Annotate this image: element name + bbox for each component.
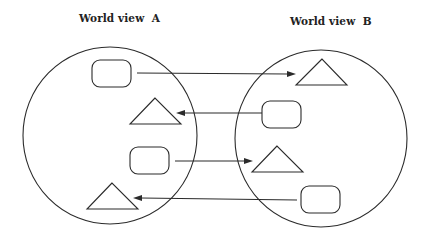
world-view-b-circle — [235, 50, 407, 227]
mapping-arrow-3 — [175, 158, 253, 164]
world-a-rounded-rectangle-1 — [92, 60, 131, 87]
world-b-rounded-rectangle-4 — [301, 186, 340, 213]
mapping-arrow-1 — [137, 71, 296, 77]
mapping-arrow-4 — [133, 195, 297, 201]
world-b-rounded-rectangle-2 — [262, 101, 301, 128]
world-a-triangle-4 — [87, 183, 138, 209]
world-view-mapping-diagram — [0, 0, 430, 240]
world-a-triangle-2 — [130, 98, 181, 124]
world-a-rounded-rectangle-3 — [130, 147, 169, 174]
world-b-triangle-3 — [252, 146, 303, 172]
mapping-arrow-2 — [176, 110, 262, 116]
world-b-triangle-1 — [296, 59, 347, 85]
